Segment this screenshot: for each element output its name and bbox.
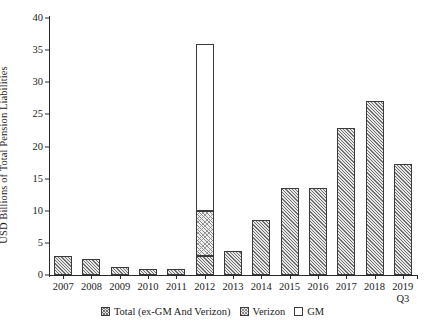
legend-item[interactable]: Total (ex-GM And Verizon) <box>101 306 231 317</box>
x-tick-mark <box>176 275 177 279</box>
bar-slot <box>332 18 360 275</box>
legend: Total (ex-GM And Verizon)VerizonGM <box>0 306 425 317</box>
legend-item[interactable]: GM <box>294 306 324 317</box>
stacked-bar[interactable] <box>394 164 412 275</box>
x-tick-mark-end <box>417 275 418 279</box>
legend-swatch-icon <box>294 307 303 316</box>
y-axis-title: USD Billions of Total Pension Liabilitie… <box>0 40 9 270</box>
bar-segment-verizon[interactable] <box>196 211 214 256</box>
bar-slot <box>49 18 77 275</box>
legend-label: Verizon <box>253 306 286 317</box>
bar-slot <box>275 18 303 275</box>
x-tick-label-sub: Q3 <box>381 293 425 305</box>
bar-segment-total[interactable] <box>111 267 129 275</box>
legend-swatch-icon <box>101 307 110 316</box>
bar-slot <box>389 18 417 275</box>
legend-label: GM <box>307 306 324 317</box>
x-tick-label-main: 2019 <box>392 281 413 292</box>
x-tick-mark <box>403 275 404 279</box>
bar-segment-total[interactable] <box>394 164 412 275</box>
bar-chart: USD Billions of Total Pension Liabilitie… <box>0 0 425 335</box>
stacked-bar[interactable] <box>82 259 100 275</box>
x-tick-mark <box>375 275 376 279</box>
bar-slot <box>106 18 134 275</box>
x-tick-mark <box>318 275 319 279</box>
stacked-bar[interactable] <box>366 101 384 275</box>
bar-segment-total[interactable] <box>337 128 355 275</box>
bar-segment-gm[interactable] <box>196 44 214 211</box>
x-tick-mark <box>120 275 121 279</box>
legend-item[interactable]: Verizon <box>240 306 286 317</box>
y-axis-title-holder: USD Billions of Total Pension Liabilitie… <box>0 0 22 300</box>
x-tick-mark <box>261 275 262 279</box>
bar-slot <box>304 18 332 275</box>
x-tick-mark <box>290 275 291 279</box>
stacked-bar[interactable] <box>111 267 129 275</box>
bar-segment-total[interactable] <box>54 256 72 275</box>
stacked-bar[interactable] <box>224 251 242 275</box>
bar-segment-total[interactable] <box>366 101 384 275</box>
x-tick-mark <box>233 275 234 279</box>
bar-slot <box>247 18 275 275</box>
x-tick-mark <box>205 275 206 279</box>
x-tick-mark <box>63 275 64 279</box>
stacked-bar[interactable] <box>309 188 327 275</box>
bar-segment-total[interactable] <box>281 188 299 275</box>
stacked-bar[interactable] <box>337 128 355 275</box>
x-tick-label: 2019Q3 <box>381 281 425 305</box>
bar-segment-total[interactable] <box>309 188 327 275</box>
stacked-bar[interactable] <box>252 220 270 275</box>
bar-slot <box>191 18 219 275</box>
bar-segment-total[interactable] <box>196 256 214 275</box>
x-tick-mark <box>148 275 149 279</box>
plot-area: 0510152025303540 <box>49 18 417 275</box>
bar-slot <box>360 18 388 275</box>
bar-segment-total[interactable] <box>252 220 270 275</box>
legend-label: Total (ex-GM And Verizon) <box>114 306 231 317</box>
x-tick-mark <box>91 275 92 279</box>
bar-segment-total[interactable] <box>224 251 242 275</box>
x-tick-mark <box>346 275 347 279</box>
bar-slot <box>134 18 162 275</box>
bar-slot <box>77 18 105 275</box>
stacked-bar[interactable] <box>54 256 72 275</box>
stacked-bar[interactable] <box>196 44 214 275</box>
bar-slot <box>219 18 247 275</box>
stacked-bar[interactable] <box>281 188 299 275</box>
bar-slot <box>162 18 190 275</box>
bar-segment-total[interactable] <box>82 259 100 275</box>
legend-swatch-icon <box>240 307 249 316</box>
